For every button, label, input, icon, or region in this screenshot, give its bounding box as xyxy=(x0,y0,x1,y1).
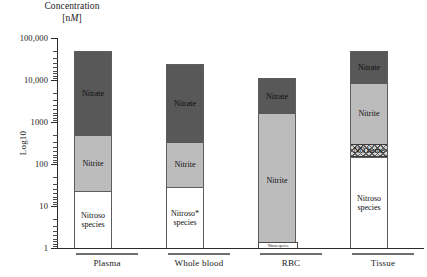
segment-label: Nitroso* species xyxy=(167,209,203,228)
x-category-tissue: Tissue xyxy=(338,258,427,268)
segment-label: Nitrite xyxy=(175,160,196,170)
y-tick-10 xyxy=(51,206,58,207)
y-tick-100 xyxy=(51,164,58,165)
segment-rbc-nitrate: Nitrate xyxy=(259,79,295,114)
x-axis-separator xyxy=(76,253,138,255)
y-tick-label-10000: 10,000 xyxy=(2,75,48,85)
y-tick-100000 xyxy=(51,38,58,39)
bar-plasma: Nitrate Nitrite Nitroso species xyxy=(74,51,112,249)
x-axis-separator xyxy=(352,253,414,255)
segment-tissue-nitrite: Nitrite xyxy=(351,84,387,144)
y-tick-label-100: 100 xyxy=(2,159,48,169)
y-axis-title-main: Concentration xyxy=(44,1,99,11)
y-tick-label-10: 10 xyxy=(2,201,48,211)
y-tick-label-1000: 1000 xyxy=(2,117,48,127)
unit-suffix: ] xyxy=(78,13,81,23)
x-category-whole-blood: Whole blood xyxy=(154,258,244,268)
y-axis-title: Concentration [nM] xyxy=(18,1,126,24)
segment-label: Nitrite xyxy=(267,176,288,186)
segment-whole-blood-nitrite: Nitrite xyxy=(167,143,203,187)
y-tick-label-100000: 100,000 xyxy=(2,33,48,43)
segment-label: Nitrate xyxy=(82,89,104,99)
segment-label: Nitroso species xyxy=(351,194,387,213)
bar-tissue: Nitrate Nitrite NO heme Nitroso species xyxy=(350,51,388,249)
segment-tissue-nitrate: Nitrate xyxy=(351,52,387,84)
segment-tissue-nitroso: Nitroso species xyxy=(351,157,387,248)
segment-rbc-nitrite: Nitrite xyxy=(259,114,295,248)
segment-label: Nitroso species xyxy=(75,211,111,230)
segment-plasma-nitrate: Nitrate xyxy=(75,52,111,136)
x-axis-baseline xyxy=(57,248,424,249)
y-tick-10000 xyxy=(51,80,58,81)
segment-whole-blood-nitrate: Nitrate xyxy=(167,65,203,143)
segment-tissue-no-heme: NO heme xyxy=(351,144,387,157)
segment-whole-blood-nitroso: Nitroso* species xyxy=(167,187,203,248)
segment-plasma-nitrite: Nitrite xyxy=(75,136,111,191)
segment-label: Nitrite xyxy=(359,109,380,119)
segment-label: Nitrate xyxy=(174,99,196,109)
x-axis-separator xyxy=(168,253,230,255)
x-axis-separator xyxy=(260,253,322,255)
segment-label: Nitrite xyxy=(83,159,104,169)
y-tick-label-1: 1 xyxy=(2,243,48,253)
segment-label: Nitroso species xyxy=(268,244,289,248)
y-axis-unit: [nM] xyxy=(18,13,126,25)
x-category-rbc: RBC xyxy=(246,258,336,268)
plot-area: Nitrate Nitrite Nitroso species Nitrate … xyxy=(58,38,424,249)
y-tick-1000 xyxy=(51,122,58,123)
x-category-plasma: Plasma xyxy=(62,258,152,268)
segment-label: Nitrate xyxy=(358,63,380,73)
segment-plasma-nitroso: Nitroso species xyxy=(75,191,111,248)
bar-whole-blood: Nitrate Nitrite Nitroso* species xyxy=(166,64,204,249)
segment-label: NO heme xyxy=(354,146,385,156)
bar-rbc: Nitrate Nitrite Nitroso species xyxy=(258,78,296,249)
segment-label: Nitrate xyxy=(266,92,288,102)
log-concentration-stacked-bar-chart: Concentration [nM] Log10 100,000 10,000 … xyxy=(0,0,427,277)
